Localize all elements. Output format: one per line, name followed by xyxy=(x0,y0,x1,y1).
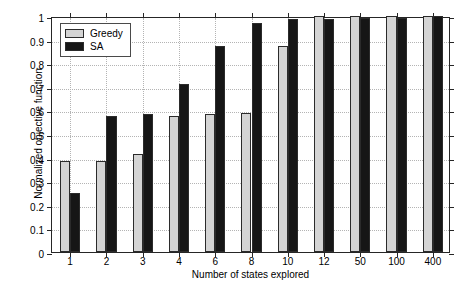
y-tick-mark xyxy=(449,254,454,255)
y-tick-mark xyxy=(47,112,52,113)
y-tick-mark xyxy=(47,65,52,66)
y-tick-mark xyxy=(47,18,52,19)
y-tick-label: 0.6 xyxy=(30,107,44,118)
bar-greedy-1 xyxy=(60,161,70,252)
figure-canvas: Normalized objective function 00.10.20.3… xyxy=(0,0,467,293)
plot-area: 00.10.20.30.40.50.60.70.80.91 1234681012… xyxy=(51,17,450,253)
y-tick-mark xyxy=(449,183,454,184)
legend-swatch-sa xyxy=(65,42,84,51)
bar-sa-100 xyxy=(397,18,407,252)
bar-sa-6 xyxy=(215,46,225,252)
bar-greedy-12 xyxy=(314,16,324,252)
y-tick-label: 0.2 xyxy=(30,201,44,212)
y-tick-mark xyxy=(47,136,52,137)
y-tick-label: 0.4 xyxy=(30,154,44,165)
y-tick-mark xyxy=(449,18,454,19)
y-tick-label: 0.1 xyxy=(30,225,44,236)
bar-sa-50 xyxy=(360,18,370,252)
bar-sa-12 xyxy=(324,19,334,252)
legend-item-sa: SA xyxy=(65,40,123,53)
y-tick-mark xyxy=(47,89,52,90)
y-tick-mark xyxy=(47,183,52,184)
bar-sa-4 xyxy=(179,84,189,253)
y-tick-mark xyxy=(449,89,454,90)
bar-greedy-8 xyxy=(241,113,251,252)
x-tick-label: 50 xyxy=(355,256,366,267)
x-tick-mark xyxy=(215,13,216,18)
x-tick-label: 4 xyxy=(176,256,182,267)
chart-legend: Greedy SA xyxy=(60,23,131,57)
bar-greedy-4 xyxy=(169,116,179,252)
y-tick-mark xyxy=(449,230,454,231)
bar-greedy-2 xyxy=(96,161,106,252)
x-tick-mark xyxy=(106,13,107,18)
legend-item-greedy: Greedy xyxy=(65,27,123,40)
x-tick-mark xyxy=(324,13,325,18)
x-tick-label: 12 xyxy=(318,256,329,267)
bar-greedy-10 xyxy=(278,46,288,253)
y-tick-label: 0.7 xyxy=(30,83,44,94)
y-tick-mark xyxy=(449,65,454,66)
y-tick-label: 0.8 xyxy=(30,60,44,71)
bar-sa-10 xyxy=(288,19,298,252)
bar-greedy-100 xyxy=(386,16,396,252)
bar-sa-2 xyxy=(106,116,116,252)
y-tick-mark xyxy=(449,207,454,208)
x-tick-label: 10 xyxy=(282,256,293,267)
y-tick-mark xyxy=(449,136,454,137)
bar-sa-400 xyxy=(433,16,443,252)
y-tick-mark xyxy=(47,42,52,43)
y-tick-label: 1 xyxy=(38,13,44,24)
y-tick-mark xyxy=(47,207,52,208)
y-tick-mark xyxy=(47,230,52,231)
x-tick-label: 6 xyxy=(212,256,218,267)
y-tick-label: 0.9 xyxy=(30,36,44,47)
y-tick-mark xyxy=(47,254,52,255)
bar-sa-3 xyxy=(143,114,153,252)
x-tick-label: 400 xyxy=(425,256,442,267)
bar-sa-8 xyxy=(252,23,262,252)
x-tick-mark xyxy=(179,13,180,18)
bar-greedy-6 xyxy=(205,114,215,252)
legend-label-greedy: Greedy xyxy=(90,28,123,39)
x-tick-label: 1 xyxy=(67,256,73,267)
y-tick-label: 0 xyxy=(38,249,44,260)
y-tick-label: 0.3 xyxy=(30,178,44,189)
y-tick-mark xyxy=(47,160,52,161)
bar-greedy-50 xyxy=(350,16,360,252)
x-tick-mark xyxy=(252,13,253,18)
x-tick-mark xyxy=(143,13,144,18)
x-tick-label: 100 xyxy=(388,256,405,267)
x-tick-mark xyxy=(288,13,289,18)
x-tick-label: 3 xyxy=(140,256,146,267)
x-tick-label: 8 xyxy=(249,256,255,267)
y-tick-label: 0.5 xyxy=(30,131,44,142)
y-tick-mark xyxy=(449,42,454,43)
bar-greedy-3 xyxy=(133,154,143,252)
legend-label-sa: SA xyxy=(90,41,103,52)
x-tick-mark xyxy=(70,13,71,18)
x-tick-label: 2 xyxy=(104,256,110,267)
y-tick-mark xyxy=(449,112,454,113)
bar-greedy-400 xyxy=(423,16,433,252)
legend-swatch-greedy xyxy=(65,29,84,38)
bar-sa-1 xyxy=(70,193,80,252)
x-axis-label: Number of states explored xyxy=(51,269,450,280)
y-tick-mark xyxy=(449,160,454,161)
